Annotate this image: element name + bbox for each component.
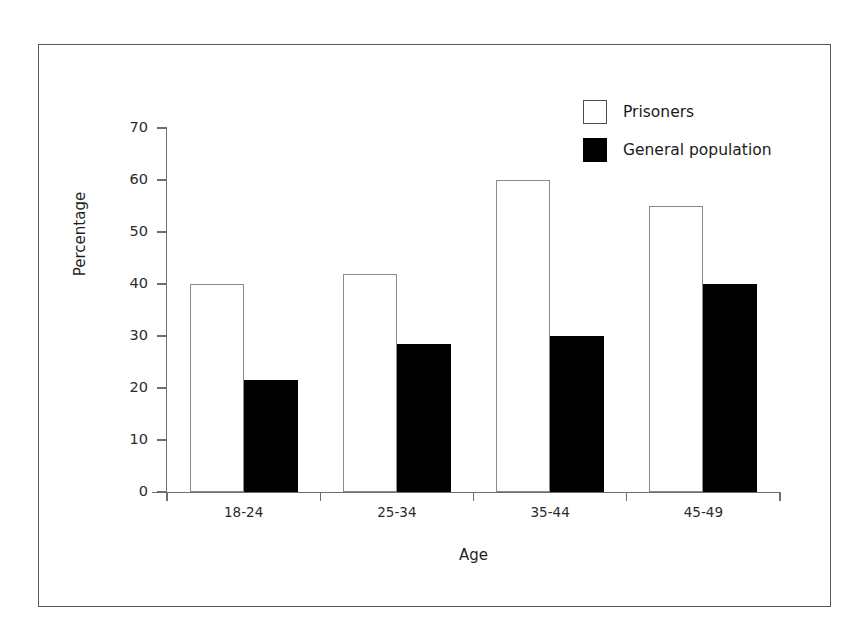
- bar-18-24-general-population: [244, 380, 298, 492]
- legend: Prisoners General population: [583, 99, 772, 175]
- y-axis-tick-mark: [157, 335, 166, 336]
- x-axis-category-label: 35-44: [490, 504, 610, 520]
- y-axis-tick-label-text: 70: [104, 120, 148, 135]
- y-axis-tick-mark: [157, 387, 166, 388]
- x-axis-category-label: 25-34: [337, 504, 457, 520]
- x-axis-tick-mark: [473, 492, 474, 501]
- y-axis-tick-mark: [157, 231, 166, 232]
- y-axis-tick-label-text: 20: [104, 380, 148, 395]
- legend-item-label: Prisoners: [623, 103, 694, 121]
- y-axis-tick-mark: [157, 439, 166, 440]
- x-axis-tick-mark: [320, 492, 321, 501]
- y-axis-tick-mark: [157, 127, 166, 128]
- y-axis-tick-label-text: 50: [104, 224, 148, 239]
- bar-35-44-prisoners: [496, 180, 550, 492]
- y-axis-title: Percentage: [71, 169, 89, 299]
- figure-root: 010203040506070 18-2425-3435-4445-49 Per…: [0, 0, 867, 640]
- bar-35-44-general-population: [550, 336, 604, 492]
- y-axis-tick-label-text: 30: [104, 328, 148, 343]
- y-axis-tick-mark: [157, 491, 166, 492]
- bar-25-34-general-population: [397, 344, 451, 492]
- legend-item-general-population: General population: [583, 137, 772, 163]
- x-axis-category-label: 45-49: [643, 504, 763, 520]
- y-axis-tick-label-text: 60: [104, 172, 148, 187]
- legend-item-prisoners: Prisoners: [583, 99, 772, 125]
- bar-25-34-prisoners: [343, 274, 397, 492]
- y-axis-tick-label-text: 10: [104, 432, 148, 447]
- legend-swatch-filled-square-icon: [583, 138, 607, 162]
- legend-swatch-open-square-icon: [583, 100, 607, 124]
- x-axis-tick-mark: [779, 492, 780, 501]
- plot-area: [167, 128, 780, 492]
- x-axis-title: Age: [167, 546, 780, 564]
- y-axis-tick-mark: [157, 283, 166, 284]
- legend-item-label: General population: [623, 141, 772, 159]
- x-axis-category-label: 18-24: [184, 504, 304, 520]
- bar-45-49-general-population: [703, 284, 757, 492]
- x-axis-tick-mark: [166, 492, 167, 501]
- x-axis-tick-mark: [626, 492, 627, 501]
- bar-18-24-prisoners: [190, 284, 244, 492]
- y-axis-tick-label-text: 0: [104, 484, 148, 499]
- y-axis-tick-label-text: 40: [104, 276, 148, 291]
- y-axis-tick-mark: [157, 179, 166, 180]
- bar-45-49-prisoners: [649, 206, 703, 492]
